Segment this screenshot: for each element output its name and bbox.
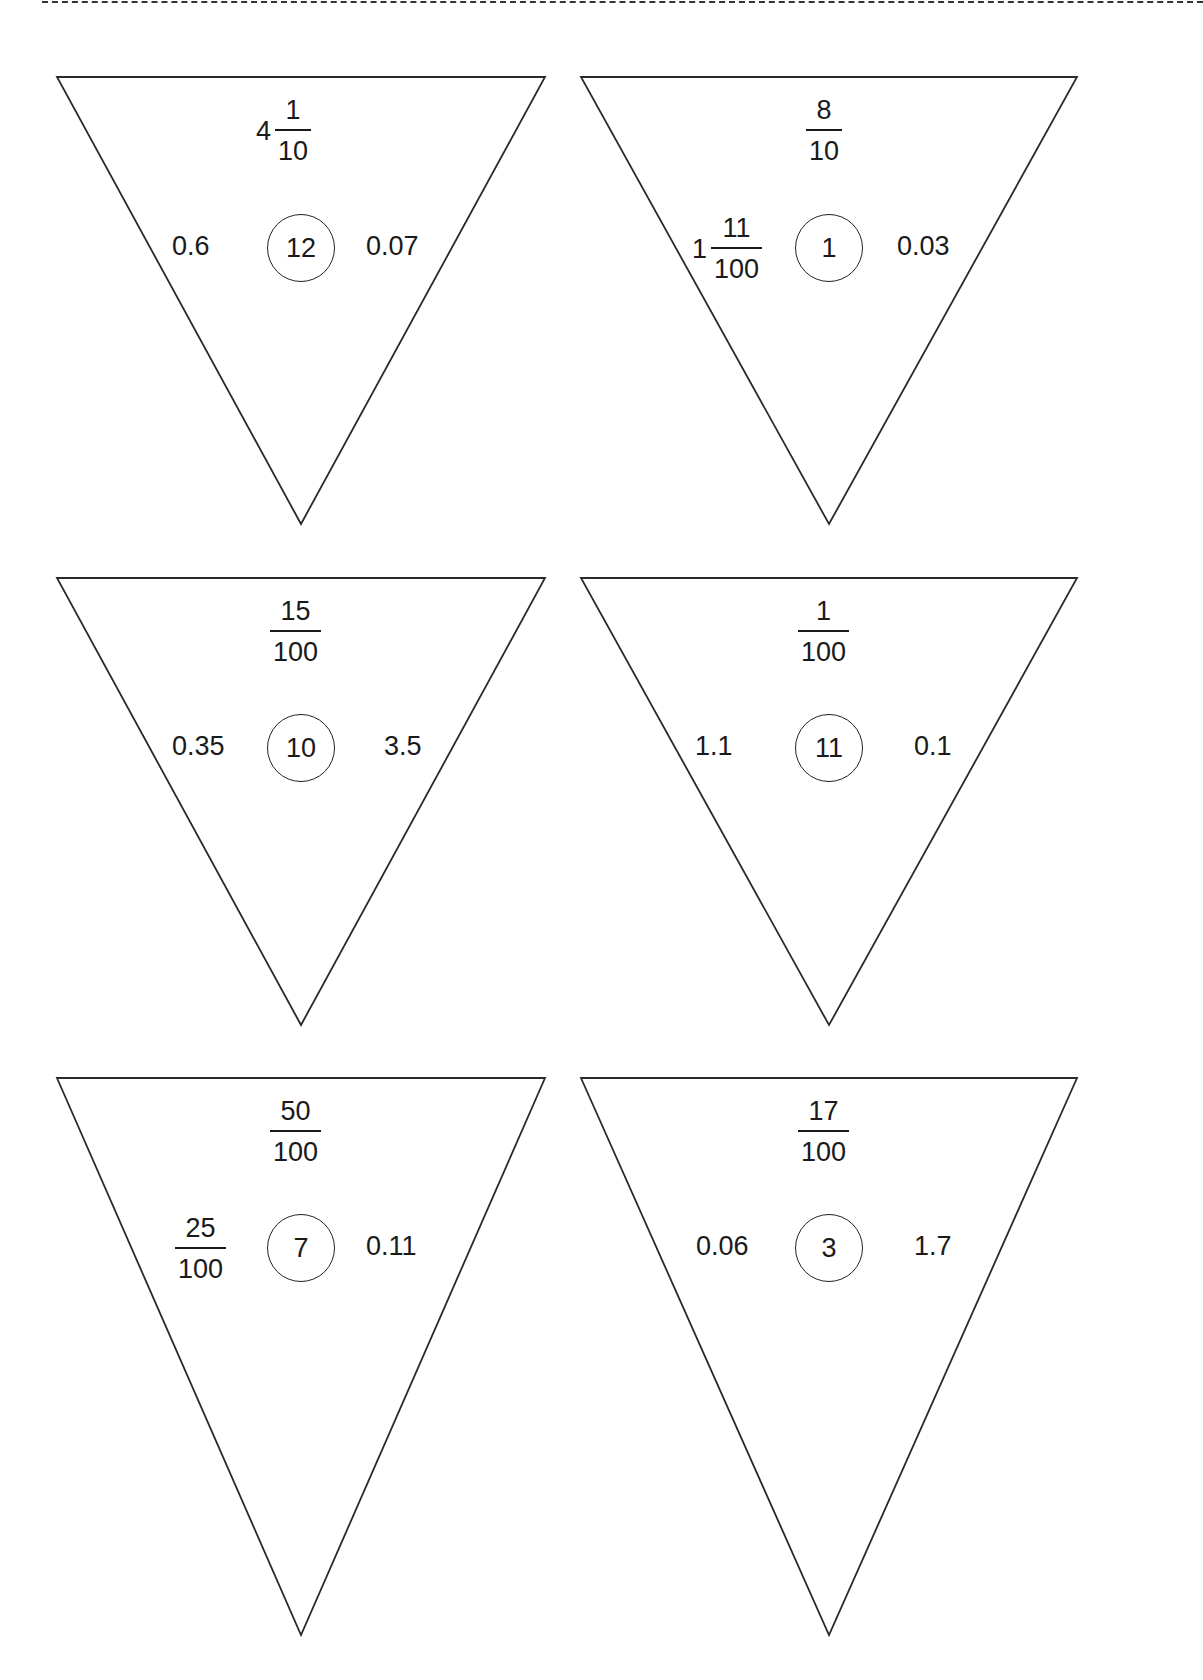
card-6-right-value: 1.7 xyxy=(914,1233,952,1260)
card-2-center-number: 1 xyxy=(795,214,863,282)
card-5-center-number: 7 xyxy=(267,1214,335,1282)
card-4-left-value: 1.1 xyxy=(695,733,733,760)
card-3-top-value: 15 100 xyxy=(270,598,321,666)
card-3-right-value: 3.5 xyxy=(384,733,422,760)
card-5-right-value: 0.11 xyxy=(366,1233,417,1260)
card-1-center-number: 12 xyxy=(267,214,335,282)
card-1-right-value: 0.07 xyxy=(366,233,419,260)
card-5-left-value: 25 100 xyxy=(175,1215,226,1283)
card-5-top-value: 50 100 xyxy=(270,1098,321,1166)
card-1-left-value: 0.6 xyxy=(172,233,210,260)
card-2-top-value: 8 10 xyxy=(806,97,842,165)
card-1-top-value: 4 1 10 xyxy=(256,97,311,165)
card-4-right-value: 0.1 xyxy=(914,733,952,760)
card-4-top-value: 1 100 xyxy=(798,598,849,666)
card-3-center-number: 10 xyxy=(267,714,335,782)
card-3-left-value: 0.35 xyxy=(172,733,225,760)
card-6-center-number: 3 xyxy=(795,1214,863,1282)
card-2-right-value: 0.03 xyxy=(897,233,950,260)
card-2-left-value: 1 11 100 xyxy=(692,215,762,283)
card-6-left-value: 0.06 xyxy=(696,1233,749,1260)
card-6-top-value: 17 100 xyxy=(798,1098,849,1166)
card-4-center-number: 11 xyxy=(795,714,863,782)
